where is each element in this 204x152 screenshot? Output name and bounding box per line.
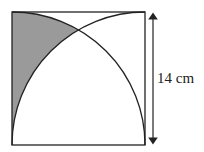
- shaded-region: [12, 12, 79, 145]
- dimension-label: 14 cm: [157, 70, 194, 86]
- geometry-figure: 14 cm: [0, 0, 204, 152]
